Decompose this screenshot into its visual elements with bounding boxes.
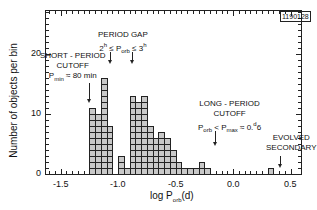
tick-mark — [61, 169, 62, 174]
tick-mark — [46, 126, 49, 127]
tick-mark — [46, 132, 49, 133]
tick-mark — [216, 171, 217, 174]
tick-mark — [298, 36, 301, 37]
tick-mark — [298, 60, 301, 61]
tick-mark — [187, 11, 188, 14]
tick-mark — [298, 48, 301, 49]
tick-mark — [268, 11, 269, 14]
tick-mark — [285, 171, 286, 174]
tick-mark — [55, 11, 56, 14]
tick-mark — [204, 11, 205, 14]
tick-mark — [124, 11, 125, 14]
tick-mark — [46, 90, 49, 91]
tick-mark — [107, 11, 108, 14]
tick-mark — [199, 11, 200, 14]
tick-mark — [55, 171, 56, 174]
tick-mark — [46, 156, 49, 157]
histogram-cell — [107, 138, 114, 145]
histogram-cell — [268, 168, 275, 175]
tick-mark — [66, 11, 67, 14]
x-tick--1.0: -1.0 — [110, 179, 126, 189]
histogram-cell — [164, 138, 171, 145]
tick-mark — [176, 11, 177, 14]
tick-mark — [61, 11, 62, 16]
figure-id: 1190128 — [280, 11, 311, 22]
tick-mark — [298, 30, 301, 31]
tick-mark — [46, 108, 49, 109]
tick-mark — [46, 36, 49, 37]
annotation-long-period: LONG - PERIOD CUTOFF Porb < Pmax ≈ 0.d6 — [198, 99, 261, 135]
histogram-cell — [170, 150, 177, 157]
y-tick-0: 0 — [36, 168, 41, 178]
histogram-cell — [101, 108, 108, 115]
tick-mark — [46, 12, 49, 13]
tick-mark — [298, 84, 301, 85]
x-tick--1.5: -1.5 — [53, 179, 69, 189]
tick-mark — [112, 11, 113, 14]
tick-mark — [101, 11, 102, 14]
tick-mark — [298, 120, 301, 121]
histogram-cell — [107, 162, 114, 169]
tick-mark — [95, 11, 96, 14]
histogram-cell — [101, 90, 108, 97]
tick-mark — [46, 48, 49, 49]
tick-mark — [193, 11, 194, 14]
tick-mark — [298, 126, 301, 127]
tick-mark — [46, 42, 49, 43]
y-axis-label: Number of objects per bin — [8, 43, 19, 158]
x-tick-0.5: 0.5 — [284, 179, 297, 189]
tick-mark — [72, 11, 73, 14]
arrow-evolved — [280, 156, 281, 165]
tick-mark — [298, 24, 301, 25]
histogram-cell — [101, 84, 108, 91]
tick-mark — [298, 72, 301, 73]
tick-mark — [239, 171, 240, 174]
tick-mark — [164, 11, 165, 14]
tick-mark — [84, 171, 85, 174]
tick-mark — [78, 171, 79, 174]
x-axis-label: log Porb(d) — [150, 190, 194, 203]
histogram-cell — [101, 102, 108, 109]
tick-mark — [89, 11, 90, 14]
tick-mark — [72, 171, 73, 174]
histogram-cell — [141, 114, 148, 121]
annotation-short-period: SHORT - PERIOD CUTOFF Pmin ≈ 80 min — [40, 51, 106, 84]
tick-mark — [49, 11, 50, 14]
y-tick-10: 10 — [31, 108, 41, 118]
tick-mark — [46, 84, 49, 85]
tick-mark — [46, 150, 49, 151]
tick-mark — [46, 144, 49, 145]
tick-mark — [46, 120, 49, 121]
tick-mark — [298, 96, 301, 97]
tick-mark — [46, 18, 49, 19]
histogram-cell — [147, 126, 154, 133]
tick-mark — [46, 114, 51, 115]
arrow-short-period — [89, 83, 90, 100]
tick-mark — [298, 42, 301, 43]
tick-mark — [250, 171, 251, 174]
tick-mark — [46, 102, 49, 103]
tick-mark — [298, 102, 301, 103]
tick-mark — [118, 11, 119, 14]
tick-mark — [158, 11, 159, 14]
tick-mark — [222, 11, 223, 14]
tick-mark — [233, 169, 234, 174]
tick-mark — [227, 171, 228, 174]
tick-mark — [153, 11, 154, 14]
arrow-gap-right — [132, 52, 133, 61]
histogram-cell — [141, 102, 148, 109]
tick-mark — [227, 11, 228, 14]
histogram-cell — [141, 96, 148, 103]
tick-mark — [84, 11, 85, 14]
annotation-period-gap: PERIOD GAP 2h ≤ Porb ≤ 3h — [98, 30, 148, 56]
tick-mark — [46, 138, 49, 139]
tick-mark — [250, 11, 251, 14]
tick-mark — [296, 114, 301, 115]
tick-mark — [216, 11, 217, 14]
tick-mark — [46, 162, 49, 163]
tick-mark — [256, 171, 257, 174]
tick-mark — [245, 11, 246, 14]
histogram-cell — [107, 144, 114, 151]
tick-mark — [298, 156, 301, 157]
histogram-cell — [204, 168, 211, 175]
